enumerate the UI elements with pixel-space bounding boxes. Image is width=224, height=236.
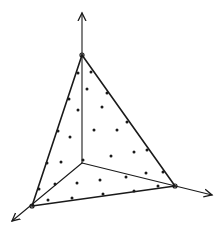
lattice-point — [60, 161, 63, 164]
lattice-point — [71, 197, 74, 200]
lattice-point — [57, 130, 60, 133]
lattice-points — [38, 71, 165, 202]
lattice-point — [77, 72, 80, 75]
lattice-point — [157, 185, 160, 188]
coordinate-axes — [12, 13, 212, 221]
lattice-point — [99, 179, 102, 182]
lattice-point — [82, 159, 85, 162]
lattice-point — [46, 162, 49, 165]
lattice-point — [86, 88, 89, 91]
lattice-point — [133, 190, 136, 193]
edge-left-right — [32, 186, 175, 206]
x-axis-arrow — [12, 163, 82, 221]
simplex-diagram — [0, 0, 224, 236]
lattice-point — [110, 155, 113, 158]
lattice-point — [68, 98, 71, 101]
lattice-point — [90, 71, 93, 74]
lattice-point — [93, 129, 96, 132]
lattice-point — [54, 183, 57, 186]
lattice-point — [77, 109, 80, 112]
lattice-point — [38, 188, 41, 191]
lattice-point — [145, 172, 148, 175]
lattice-point — [146, 149, 149, 152]
lattice-point — [125, 176, 128, 179]
lattice-point — [47, 199, 50, 202]
lattice-point — [126, 121, 129, 124]
lattice-point — [102, 193, 105, 196]
lattice-point — [76, 182, 79, 185]
lattice-point — [69, 136, 72, 139]
triangle-edges — [30, 53, 177, 208]
lattice-point — [116, 129, 119, 132]
lattice-point — [162, 171, 165, 174]
lattice-point — [133, 151, 136, 154]
lattice-point — [101, 106, 104, 109]
lattice-point — [106, 92, 109, 95]
